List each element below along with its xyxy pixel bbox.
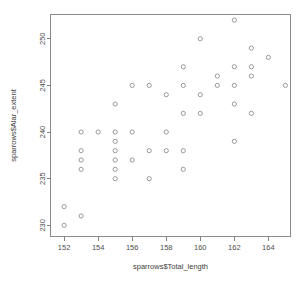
data-point (79, 149, 83, 153)
data-point (96, 130, 100, 134)
data-point (147, 83, 151, 87)
data-point (62, 223, 66, 227)
plot-canvas: 152154156158160162164 230235240245250 sp… (0, 0, 307, 282)
data-point (232, 102, 236, 106)
data-point (113, 139, 117, 143)
x-axis-ticks: 152154156158160162164 (58, 237, 275, 252)
data-point (79, 214, 83, 218)
y-tick-label: 250 (38, 32, 47, 45)
data-points-layer (62, 18, 287, 227)
data-point (215, 74, 219, 78)
y-axis-ticks: 230235240245250 (38, 32, 50, 231)
data-point (181, 65, 185, 69)
x-tick-label: 162 (228, 243, 241, 252)
y-tick-label: 240 (38, 126, 47, 139)
data-point (113, 167, 117, 171)
data-point (198, 111, 202, 115)
data-point (113, 177, 117, 181)
data-point (181, 111, 185, 115)
data-point (62, 205, 66, 209)
scatter-plot-figure: 152154156158160162164 230235240245250 sp… (0, 0, 307, 282)
data-point (164, 149, 168, 153)
data-point (113, 102, 117, 106)
x-tick-label: 158 (160, 243, 173, 252)
x-tick-label: 156 (126, 243, 139, 252)
data-point (266, 55, 270, 59)
x-tick-label: 164 (262, 243, 275, 252)
data-point (164, 130, 168, 134)
y-axis-label: sparrows$Alar_extent (9, 88, 18, 161)
data-point (113, 130, 117, 134)
data-point (147, 149, 151, 153)
data-point (249, 46, 253, 50)
data-point (249, 65, 253, 69)
data-point (164, 93, 168, 97)
data-point (181, 149, 185, 153)
data-point (198, 37, 202, 41)
x-tick-label: 152 (58, 243, 71, 252)
data-point (130, 83, 134, 87)
data-point (232, 65, 236, 69)
y-tick-label: 245 (38, 79, 47, 92)
data-point (215, 83, 219, 87)
data-point (232, 139, 236, 143)
data-point (181, 83, 185, 87)
data-point (181, 167, 185, 171)
data-point (113, 158, 117, 162)
data-point (113, 149, 117, 153)
data-point (249, 111, 253, 115)
x-tick-label: 154 (92, 243, 105, 252)
data-point (79, 158, 83, 162)
data-point (79, 167, 83, 171)
data-point (283, 83, 287, 87)
y-tick-label: 230 (38, 219, 47, 232)
data-point (130, 130, 134, 134)
y-tick-label: 235 (38, 172, 47, 185)
data-point (232, 83, 236, 87)
plot-border (51, 15, 291, 237)
data-point (232, 18, 236, 22)
data-point (249, 74, 253, 78)
data-point (147, 177, 151, 181)
x-axis-label: sparrows$Total_length (133, 262, 208, 271)
data-point (198, 93, 202, 97)
data-point (130, 158, 134, 162)
x-tick-label: 160 (194, 243, 207, 252)
plot-frame (51, 15, 291, 237)
data-point (79, 130, 83, 134)
